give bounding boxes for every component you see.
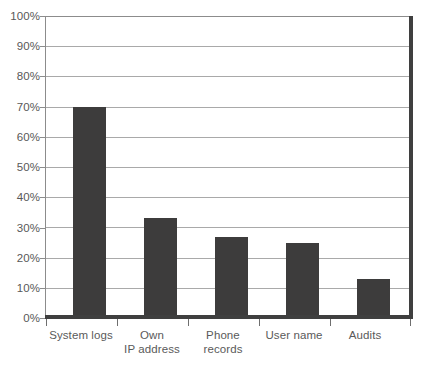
y-tick-label-60: 60% xyxy=(0,132,40,144)
y-tick-label-80: 80% xyxy=(0,71,40,83)
right-axis-line xyxy=(409,16,413,319)
y-tick-label-40: 40% xyxy=(0,192,40,204)
y-tick-mark-0 xyxy=(40,318,45,319)
x-axis-line xyxy=(45,315,413,319)
bar-system-logs xyxy=(73,107,106,318)
x-label-audits-line-1: Audits xyxy=(320,328,410,342)
bar-own-ip-address xyxy=(144,218,177,318)
y-tick-label-100: 100% xyxy=(0,11,40,23)
y-tick-mark-90 xyxy=(40,46,45,47)
x-tick-mark-2 xyxy=(188,319,189,326)
y-axis-line xyxy=(45,16,46,319)
x-label-phone-records-line-2: records xyxy=(178,342,268,356)
y-tick-label-20: 20% xyxy=(0,253,40,265)
y-tick-mark-40 xyxy=(40,197,45,198)
x-tick-mark-0 xyxy=(46,319,47,326)
x-tick-mark-1 xyxy=(117,319,118,326)
y-tick-mark-100 xyxy=(40,16,45,17)
x-tick-mark-5 xyxy=(410,319,411,326)
y-tick-label-70: 70% xyxy=(0,102,40,114)
y-tick-mark-60 xyxy=(40,137,45,138)
y-tick-mark-70 xyxy=(40,107,45,108)
y-tick-mark-80 xyxy=(40,76,45,77)
bar-user-name xyxy=(286,243,319,319)
y-tick-label-50: 50% xyxy=(0,162,40,174)
bar-phone-records xyxy=(215,237,248,319)
x-tick-mark-3 xyxy=(259,319,260,326)
y-tick-mark-50 xyxy=(40,167,45,168)
y-tick-mark-10 xyxy=(40,288,45,289)
y-tick-mark-20 xyxy=(40,258,45,259)
y-tick-label-90: 90% xyxy=(0,41,40,53)
y-tick-label-0: 0% xyxy=(0,313,40,325)
y-tick-label-10: 10% xyxy=(0,283,40,295)
bar-audits xyxy=(357,279,390,318)
x-tick-mark-4 xyxy=(330,319,331,326)
bar-chart: 100% 90% 80% 70% 60% 50% 40% 30% 20% 10%… xyxy=(0,0,439,367)
y-tick-mark-30 xyxy=(40,228,45,229)
y-tick-label-30: 30% xyxy=(0,223,40,235)
bars-layer xyxy=(45,16,412,318)
x-label-audits: Audits xyxy=(320,328,410,342)
